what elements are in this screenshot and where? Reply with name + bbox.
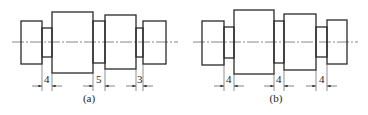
dimension-groove-3: 3 [126, 73, 153, 86]
groove-1 [224, 27, 234, 58]
dimension-groove-1: 4 [32, 73, 62, 86]
shaft-drawings: 4 5 3 (a) 4 [0, 0, 368, 115]
svg-text:4: 4 [44, 73, 50, 85]
shaft-end-left [202, 21, 224, 65]
shaft-section-large [52, 12, 93, 73]
shaft-end-right [143, 21, 166, 64]
svg-text:4: 4 [226, 73, 232, 85]
groove-1 [42, 28, 52, 57]
dimension-groove-2: 4 [264, 73, 294, 86]
shaft-end-left [21, 21, 42, 64]
figure-a: 4 5 3 (a) [12, 12, 178, 105]
svg-text:4: 4 [319, 73, 325, 85]
caption-b: (b) [270, 92, 283, 105]
svg-text:3: 3 [137, 73, 143, 85]
dimension-groove-1: 4 [214, 73, 244, 86]
dimension-groove-3: 4 [306, 73, 337, 86]
groove-3 [136, 28, 143, 57]
dimension-groove-2: 5 [83, 73, 115, 86]
caption-a: (a) [83, 92, 96, 105]
svg-text:5: 5 [96, 73, 102, 85]
figure-b: 4 4 4 (b) [193, 10, 358, 105]
svg-text:4: 4 [276, 73, 282, 85]
